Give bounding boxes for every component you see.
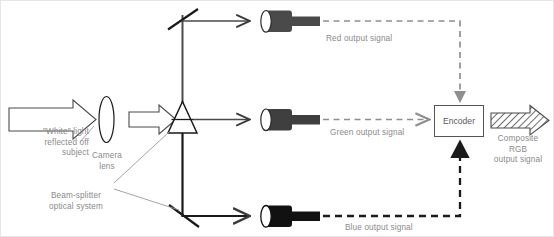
blue-output-label: Blue output signal xyxy=(345,223,413,234)
encoder-block: Encoder xyxy=(434,105,484,137)
diagram-canvas: "White" light reflected off subject Came… xyxy=(0,0,554,237)
blue-signal-path xyxy=(323,143,460,216)
composite-rgb-arrow xyxy=(491,106,549,136)
green-sensor-tube xyxy=(261,109,320,131)
beam-splitter-label: Beam-splitter optical system xyxy=(37,191,115,212)
green-output-label: Green output signal xyxy=(330,128,404,139)
camera-lens-label: Camera lens xyxy=(79,151,135,172)
camera-lens-ellipse xyxy=(99,97,114,143)
red-sensor-tube xyxy=(261,10,320,32)
blue-sensor-tube xyxy=(261,206,320,228)
red-output-label: Red output signal xyxy=(326,34,392,45)
white-light-label: "White" light reflected off subject xyxy=(1,127,89,159)
composite-rgb-label: Composite RGB output signal xyxy=(481,134,554,166)
red-signal-path xyxy=(323,21,460,101)
encoder-label: Encoder xyxy=(443,116,475,126)
